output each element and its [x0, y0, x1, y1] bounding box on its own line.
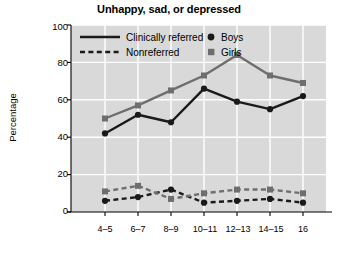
data-point-marker: [300, 80, 306, 86]
data-point-marker: [102, 188, 108, 194]
data-point-marker: [300, 200, 306, 206]
data-point-marker: [168, 87, 174, 93]
data-point-marker: [234, 198, 240, 204]
data-point-marker: [201, 72, 207, 78]
data-point-marker: [234, 99, 240, 105]
data-point-marker: [102, 116, 108, 122]
data-point-marker: [168, 119, 174, 125]
data-point-marker: [135, 183, 141, 189]
legend-marker-label-1: Girls: [221, 47, 242, 58]
chart-figure: Unhappy, sad, or depressed Percentage 10…: [0, 0, 338, 277]
legend-label-1: Nonreferred: [126, 47, 179, 58]
data-point-marker: [300, 93, 306, 99]
legend-marker-label-0: Boys: [221, 32, 243, 43]
data-point-marker: [201, 200, 207, 206]
data-point-marker: [135, 102, 141, 108]
legend-marker-circle: [208, 34, 215, 41]
data-point-marker: [300, 190, 306, 196]
legend-label-0: Clinically referred: [126, 32, 203, 43]
data-point-marker: [168, 196, 174, 202]
data-point-marker: [135, 112, 141, 118]
data-point-marker: [102, 198, 108, 204]
data-point-marker: [267, 187, 273, 193]
data-point-marker: [201, 85, 207, 91]
data-point-marker: [267, 72, 273, 78]
data-point-marker: [201, 190, 207, 196]
data-point-marker: [102, 130, 108, 136]
legend-marker-square: [208, 49, 214, 55]
data-point-marker: [168, 186, 174, 192]
plot-canvas: Clinically referredNonreferredBoysGirls: [0, 0, 338, 277]
data-point-marker: [267, 106, 273, 112]
data-point-marker: [135, 194, 141, 200]
data-point-marker: [267, 196, 273, 202]
data-point-marker: [234, 187, 240, 193]
